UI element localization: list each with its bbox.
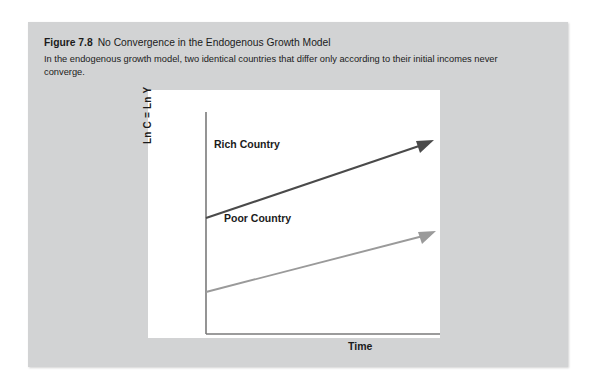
figure-title: Figure 7.8No Convergence in the Endogeno… bbox=[44, 36, 544, 50]
y-axis-label: Ln C = Ln Y bbox=[142, 87, 153, 144]
caption-block: Figure 7.8No Convergence in the Endogeno… bbox=[44, 36, 544, 79]
x-axis-label: Time bbox=[348, 340, 372, 352]
figure-card: Figure 7.8No Convergence in the Endogeno… bbox=[28, 22, 568, 367]
rich-country-arrowhead bbox=[416, 140, 434, 153]
poor-country-line bbox=[206, 235, 427, 292]
figure-title-text: No Convergence in the Endogenous Growth … bbox=[98, 37, 331, 48]
figure-caption: In the endogenous growth model, two iden… bbox=[44, 53, 514, 79]
rich-country-label: Rich Country bbox=[214, 138, 280, 150]
rich-country-line bbox=[206, 144, 425, 218]
figure-number: Figure 7.8 bbox=[44, 37, 93, 48]
poor-country-label: Poor Country bbox=[224, 212, 291, 224]
poor-country-series bbox=[206, 231, 436, 292]
rich-country-series bbox=[206, 140, 434, 218]
poor-country-arrowhead bbox=[418, 231, 436, 244]
chart-panel: Ln C = Ln Y Rich Country Poor Country Ti… bbox=[148, 90, 440, 338]
chart-svg bbox=[148, 90, 440, 338]
